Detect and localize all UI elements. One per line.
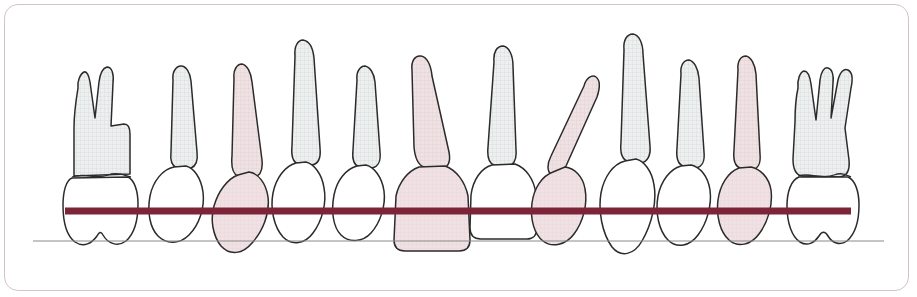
tooth-canine-right xyxy=(531,76,599,245)
root-shape xyxy=(74,67,130,176)
crown-shape xyxy=(470,164,537,239)
root-shape xyxy=(412,56,450,169)
tooth-incisor-central-right xyxy=(394,56,470,251)
dental-diagram-figure: Dental arch cross-section diagram Line d… xyxy=(0,0,917,297)
crown-shape xyxy=(333,165,385,240)
tooth-premolar-right-2 xyxy=(657,60,710,245)
root-shape xyxy=(734,56,760,170)
root-shape xyxy=(793,68,852,177)
root-shape xyxy=(677,60,704,168)
tooth-premolar-right-3 xyxy=(717,56,771,245)
crown-shape xyxy=(717,167,771,245)
tooth-premolar-left-3 xyxy=(149,66,204,242)
tooth-molar-right-outer xyxy=(787,68,859,244)
crown-shape xyxy=(149,166,204,242)
tooth-canine-left xyxy=(212,64,268,252)
crown-shape xyxy=(657,165,710,245)
dental-arch-illustration xyxy=(0,0,917,297)
tooth-premolar-right-1 xyxy=(600,34,655,254)
root-shape xyxy=(548,76,599,175)
crown-shape xyxy=(272,162,325,243)
root-shape xyxy=(171,66,198,168)
root-shape xyxy=(292,40,320,165)
root-shape xyxy=(621,34,650,163)
crown-shape xyxy=(531,167,585,245)
root-shape xyxy=(353,66,380,168)
root-shape xyxy=(488,46,516,167)
root-shape xyxy=(232,64,262,177)
crown-shape xyxy=(600,159,655,254)
tooth-molar-left-outer xyxy=(63,67,138,245)
